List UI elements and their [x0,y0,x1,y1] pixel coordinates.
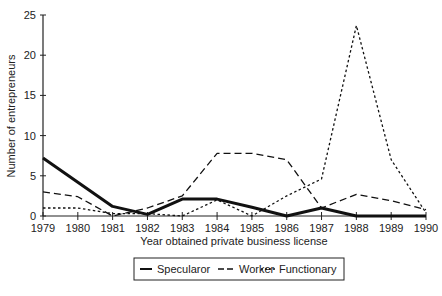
axes: 0510152025197919801981198219831984198519… [24,9,438,234]
series-line-worker [43,153,426,216]
y-tick-label: 5 [30,170,36,182]
x-tick-label: 1984 [205,222,229,234]
x-axis-title: Year obtained private business license [140,235,327,247]
y-tick-label: 20 [24,49,36,61]
x-tick-label: 1979 [31,222,55,234]
x-tick-label: 1990 [414,222,438,234]
x-tick-label: 1988 [344,222,368,234]
x-tick-label: 1981 [100,222,124,234]
x-tick-label: 1985 [240,222,264,234]
series-lines [43,25,426,216]
x-tick-label: 1986 [274,222,298,234]
y-axis-title: Number of entrepreneurs [5,54,17,177]
x-tick-label: 1987 [309,222,333,234]
line-chart: 0510152025197919801981198219831984198519… [0,0,442,296]
y-tick-label: 10 [24,130,36,142]
series-line-functionary [43,26,426,217]
x-tick-label: 1982 [135,222,159,234]
legend-label-functionary: Functionary [279,263,337,275]
y-tick-label: 0 [30,210,36,222]
x-tick-label: 1983 [170,222,194,234]
x-tick-label: 1980 [66,222,90,234]
legend-label-specularor: Specularor [157,263,211,275]
y-tick-label: 25 [24,9,36,21]
x-tick-label: 1989 [379,222,403,234]
legend: SpecularorWorkerFunctionary [134,258,344,280]
y-tick-label: 15 [24,89,36,101]
